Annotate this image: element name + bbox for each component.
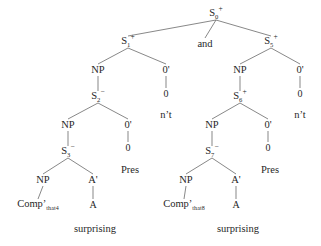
tree-edge — [212, 103, 240, 119]
node-label: A — [232, 199, 239, 210]
node-subscript: 1 — [127, 41, 130, 48]
tree-node-r_s6: S6+ — [233, 91, 246, 104]
node-label: NP — [205, 119, 218, 130]
node-label: 0' — [296, 64, 303, 75]
tree-edge — [271, 48, 300, 64]
tree-node-l_pres: Pres — [121, 165, 139, 176]
tree-node-r_zb2: 0' — [264, 120, 271, 131]
tree-node-l_comp: Comp’that4 — [17, 199, 59, 211]
node-label: n’t — [160, 109, 171, 120]
tree-node-n1: S1+ — [121, 36, 134, 49]
node-label: NP — [61, 119, 74, 130]
node-subscript: 7 — [211, 151, 214, 158]
tree-edge — [212, 158, 236, 174]
tree-node-l_s2: S2− — [91, 91, 104, 104]
node-label: 0' — [124, 119, 131, 130]
tree-node-n0: S0+ — [209, 8, 222, 21]
tree-edge — [98, 103, 128, 119]
tree-node-r_a: A — [232, 200, 239, 210]
node-label: A' — [88, 174, 97, 185]
tree-node-r_pres: Pres — [261, 165, 279, 176]
node-label: A' — [231, 174, 240, 185]
tree-node-l_a: A — [89, 200, 96, 210]
node-label: 0 — [126, 142, 131, 153]
node-label: NP — [179, 174, 192, 185]
tree-node-r_np2: NP — [205, 120, 218, 131]
tree-edge — [240, 48, 271, 64]
node-subscript: 0 — [215, 13, 218, 20]
tree-edge — [128, 48, 166, 64]
node-subscript: that4 — [46, 205, 59, 211]
node-label: 0 — [298, 88, 303, 99]
tree-node-l_np1: NP — [91, 65, 104, 76]
tree-node-l_zb1: 0' — [162, 65, 169, 76]
tree-node-l_nt: n’t — [160, 110, 171, 121]
tree-edge — [68, 158, 93, 174]
node-subscript: that8 — [192, 205, 205, 211]
tree-edge — [240, 103, 268, 119]
tree-node-nand: and — [197, 39, 212, 50]
tree-edge — [98, 48, 128, 64]
node-label: and — [197, 38, 212, 49]
node-superscript: + — [131, 32, 135, 41]
tree-edge — [128, 20, 216, 36]
node-label: 0 — [164, 88, 169, 99]
tree-node-r_z2: 0 — [266, 143, 271, 153]
tree-node-r_s7: S7− — [205, 146, 218, 159]
tree-node-l_z2: 0 — [126, 143, 131, 153]
node-superscript: − — [101, 87, 105, 96]
node-label: Comp’ — [17, 198, 46, 209]
node-label: Pres — [121, 164, 139, 175]
tree-node-r_np3: NP — [179, 175, 192, 186]
node-label: surprising — [74, 223, 116, 234]
tree-edge — [43, 158, 68, 174]
node-label: NP — [233, 64, 246, 75]
tree-node-r_comp: Comp’that8 — [163, 199, 205, 211]
node-label: 0 — [266, 142, 271, 153]
node-superscript: − — [215, 142, 219, 151]
node-label: A — [89, 199, 96, 210]
node-label: NP — [36, 174, 49, 185]
node-subscript: 6 — [239, 96, 242, 103]
node-subscript: 2 — [97, 96, 100, 103]
tree-node-l_z1: 0 — [164, 89, 169, 99]
tree-node-l_word: surprising — [74, 224, 116, 235]
node-label: NP — [91, 64, 104, 75]
node-subscript: 3 — [67, 151, 70, 158]
node-superscript: + — [243, 87, 247, 96]
tree-node-r_word: surprising — [217, 224, 259, 235]
tree-node-r_z1: 0 — [298, 89, 303, 99]
tree-edge — [68, 103, 98, 119]
tree-edge — [205, 20, 216, 38]
tree-node-l_np2: NP — [61, 120, 74, 131]
node-label: surprising — [217, 223, 259, 234]
tree-node-r_ab: A' — [231, 175, 240, 186]
tree-node-r_zb1: 0' — [296, 65, 303, 76]
node-label: Pres — [261, 164, 279, 175]
node-label: 0' — [162, 64, 169, 75]
syntax-tree-figure: S0+S1+andS5+NP0'0n’tS2−NP0'0PresS3−NPA'C… — [0, 0, 321, 246]
node-subscript: 5 — [270, 41, 273, 48]
node-label: Comp’ — [163, 198, 192, 209]
tree-node-n5: S5+ — [264, 36, 277, 49]
node-superscript: + — [274, 32, 278, 41]
tree-node-l_np3: NP — [36, 175, 49, 186]
tree-node-l_s3: S3− — [61, 146, 74, 159]
node-superscript: − — [71, 142, 75, 151]
tree-edge — [216, 20, 271, 36]
node-label: 0' — [264, 119, 271, 130]
node-label: n’t — [294, 109, 305, 120]
tree-node-r_np1: NP — [233, 65, 246, 76]
tree-node-l_zb2: 0' — [124, 120, 131, 131]
node-superscript: + — [219, 4, 223, 13]
tree-edge — [186, 158, 212, 174]
tree-node-r_nt: n’t — [294, 110, 305, 121]
tree-node-l_ab: A' — [88, 175, 97, 186]
